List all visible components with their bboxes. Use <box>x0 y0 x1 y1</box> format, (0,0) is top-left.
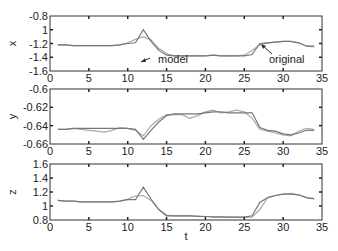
y-tick-label: 0.8 <box>33 214 48 226</box>
y-axis-label-z: z <box>6 189 18 195</box>
y-tick-label: -0.62 <box>23 101 48 113</box>
y-tick-label: -0.6 <box>29 83 48 95</box>
x-axis-label: t <box>184 230 187 242</box>
x-tick-label: 20 <box>199 145 211 157</box>
y-tick-label: -0.66 <box>23 138 48 150</box>
original-annotation-label: original <box>269 53 304 65</box>
subplot-z: 051015202530351.61.41.210.8z <box>6 158 328 233</box>
x-tick-label: 5 <box>86 221 92 233</box>
y-tick-label: 1 <box>42 200 48 212</box>
x-tick-label: 35 <box>316 221 328 233</box>
subplot-x: 05101520253035-0.81-1.2-1.4-1.6x <box>6 10 328 84</box>
x-tick-label: 25 <box>238 221 250 233</box>
x-tick-label: 10 <box>122 221 134 233</box>
series-model-z <box>58 187 314 217</box>
y-tick-label: -1.6 <box>29 65 48 77</box>
x-tick-label: 35 <box>316 72 328 84</box>
y-axis-label-y: y <box>6 113 18 119</box>
x-tick-label: 25 <box>238 72 250 84</box>
x-tick-label: 15 <box>160 72 172 84</box>
y-tick-label: -0.8 <box>29 10 48 22</box>
model-annotation-label: model <box>158 53 188 65</box>
x-tick-label: 15 <box>160 221 172 233</box>
x-tick-label: 10 <box>122 72 134 84</box>
subplot-y: 05101520253035-0.6-0.62-0.64-0.66y <box>6 83 328 157</box>
series-original-z <box>58 193 314 217</box>
x-tick-label: 20 <box>199 72 211 84</box>
y-tick-label: 1.4 <box>33 172 48 184</box>
y-tick-label: 1 <box>42 24 48 36</box>
y-tick-label: -1.2 <box>29 38 48 50</box>
x-tick-label: 10 <box>122 145 134 157</box>
y-axis-label-x: x <box>6 40 18 46</box>
axes-frame <box>50 164 322 220</box>
series-model-x <box>58 30 314 56</box>
x-tick-label: 20 <box>199 221 211 233</box>
x-tick-label: 5 <box>86 145 92 157</box>
y-tick-label: -0.64 <box>23 120 48 132</box>
x-tick-label: 30 <box>277 221 289 233</box>
y-tick-label: 1.2 <box>33 186 48 198</box>
x-tick-label: 5 <box>86 72 92 84</box>
figure: 05101520253035-0.81-1.2-1.4-1.6x05101520… <box>0 0 338 251</box>
x-tick-label: 30 <box>277 72 289 84</box>
x-tick-label: 25 <box>238 145 250 157</box>
y-tick-label: 1.6 <box>33 158 48 170</box>
x-tick-label: 30 <box>277 145 289 157</box>
x-tick-label: 15 <box>160 145 172 157</box>
model-arrowhead-icon <box>141 58 146 62</box>
x-tick-label: 35 <box>316 145 328 157</box>
y-tick-label: -1.4 <box>29 51 48 63</box>
